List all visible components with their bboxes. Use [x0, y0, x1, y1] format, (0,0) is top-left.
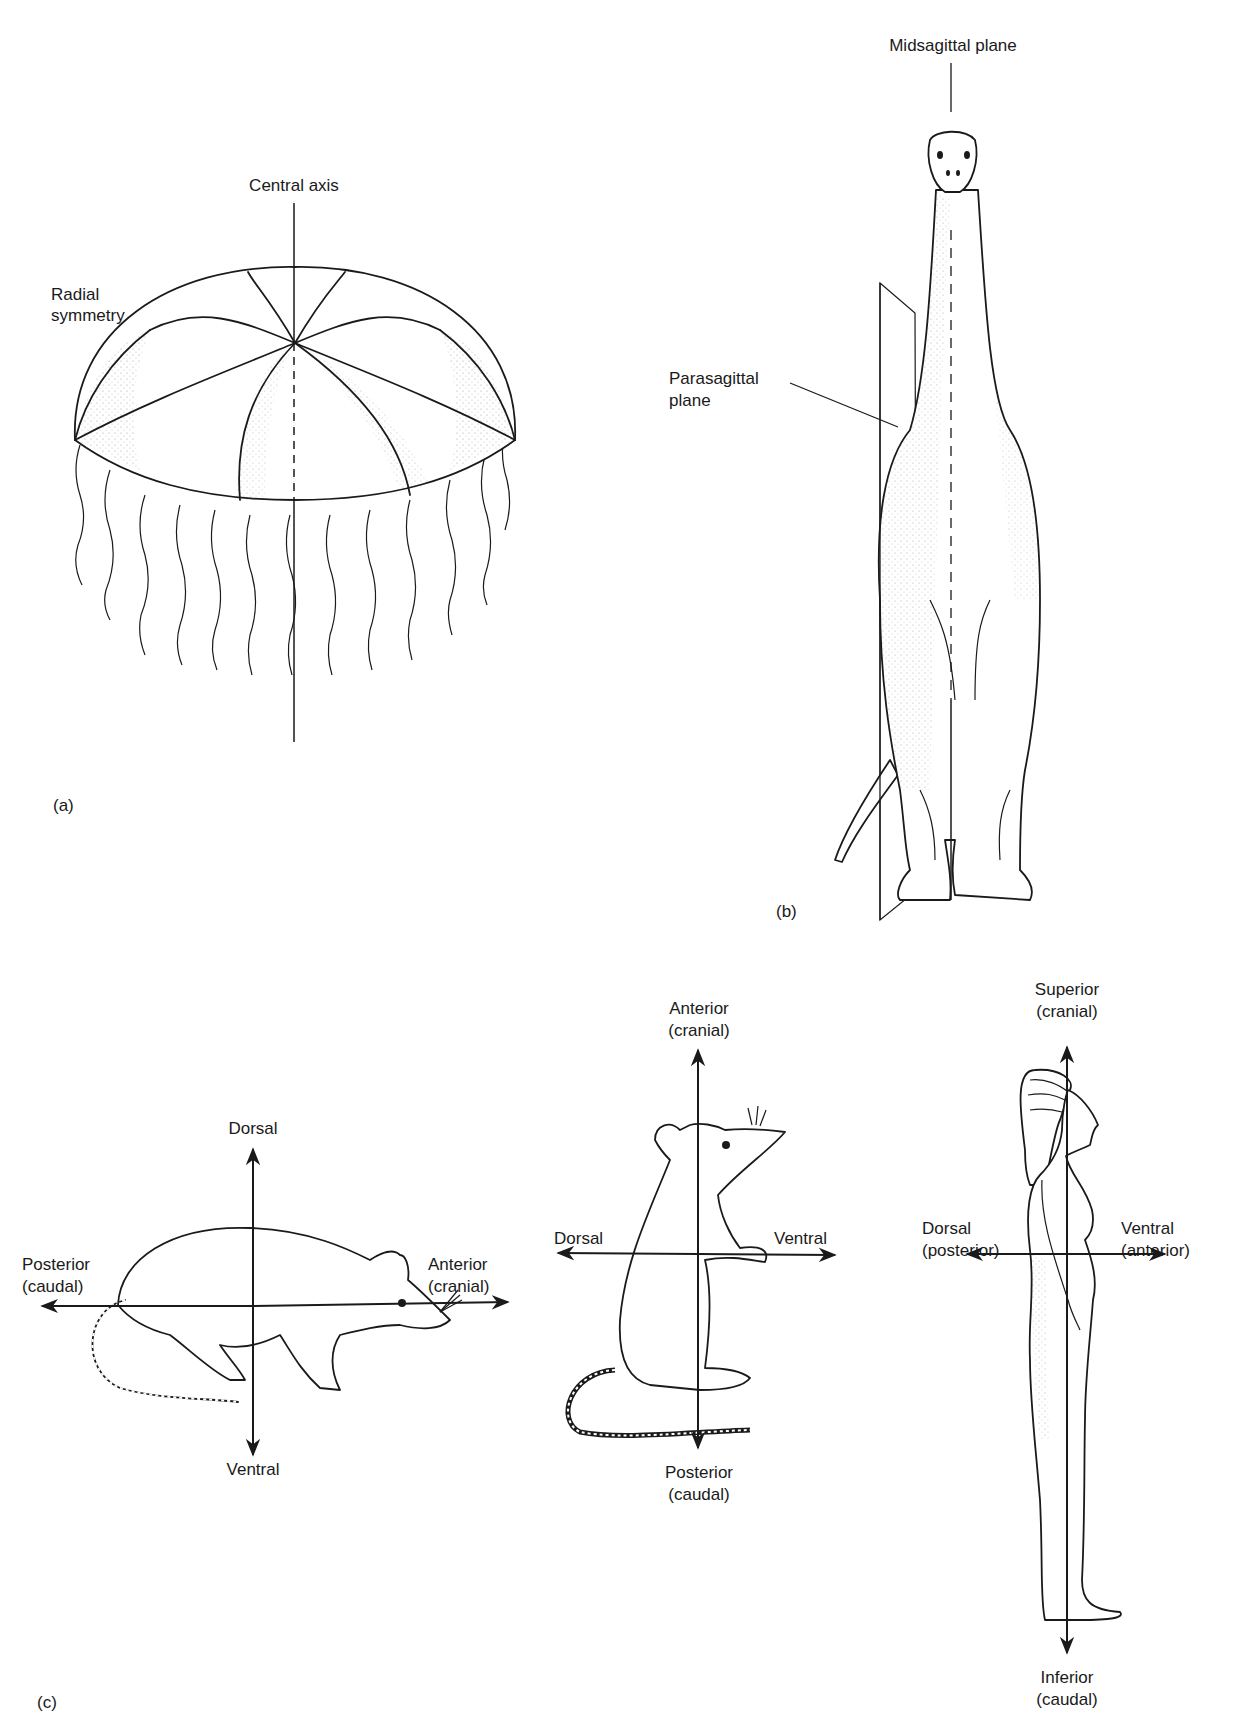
human-ventral-label-line1: Ventral	[1121, 1218, 1174, 1239]
upright-rat-anterior-label-line2: (cranial)	[644, 1020, 754, 1041]
panel-c-tag: (c)	[37, 1692, 57, 1713]
rat-posterior-label-line1: Posterior	[22, 1254, 90, 1275]
human-dorsal-label-line1: Dorsal	[922, 1218, 971, 1239]
panel-a-tag: (a)	[53, 795, 74, 816]
midsagittal-plane-label: Midsagittal plane	[868, 35, 1038, 56]
human-axes	[967, 1047, 1165, 1653]
rat-anterior-label-line1: Anterior	[428, 1254, 488, 1275]
upright-rat-dorsal-label: Dorsal	[554, 1228, 603, 1249]
radial-symmetry-label-line2: symmetry	[51, 305, 125, 326]
upright-rat-posterior-label-line1: Posterior	[644, 1462, 754, 1483]
rat-quadruped-illustration	[92, 1228, 462, 1402]
human-superior-label-line1: Superior	[1010, 979, 1124, 1000]
rat-upright-illustration	[568, 1106, 785, 1435]
central-axis-label: Central axis	[234, 175, 354, 196]
upright-rat-ventral-label: Ventral	[774, 1228, 827, 1249]
parasagittal-plane-label-line1: Parasagittal	[669, 368, 759, 389]
rat-posterior-label-line2: (caudal)	[22, 1276, 83, 1297]
parasagittal-leader-line	[790, 383, 898, 427]
jellyfish-illustration	[75, 203, 515, 742]
rat-anterior-label-line2: (cranial)	[428, 1276, 489, 1297]
rat-upright-axes	[558, 1050, 835, 1448]
rat-dorsal-label: Dorsal	[210, 1118, 296, 1139]
rat-ventral-label: Ventral	[210, 1459, 296, 1480]
human-inferior-label-line1: Inferior	[1010, 1667, 1124, 1688]
radial-symmetry-label-line1: Radial	[51, 284, 99, 305]
human-superior-label-line2: (cranial)	[1010, 1001, 1124, 1022]
panel-b-tag: (b)	[776, 901, 797, 922]
rat-quadruped-axes	[42, 1149, 508, 1455]
dinosaur-illustration	[790, 63, 1040, 920]
human-inferior-label-line2: (caudal)	[1010, 1689, 1124, 1710]
parasagittal-plane-label-line2: plane	[669, 390, 711, 411]
upright-rat-anterior-label-line1: Anterior	[644, 998, 754, 1019]
upright-rat-posterior-label-line2: (caudal)	[644, 1484, 754, 1505]
human-illustration	[1021, 1070, 1121, 1620]
human-dorsal-label-line2: (posterior)	[922, 1240, 999, 1261]
figure-canvas	[0, 0, 1237, 1724]
human-ventral-label-line2: (anterior)	[1121, 1240, 1190, 1261]
